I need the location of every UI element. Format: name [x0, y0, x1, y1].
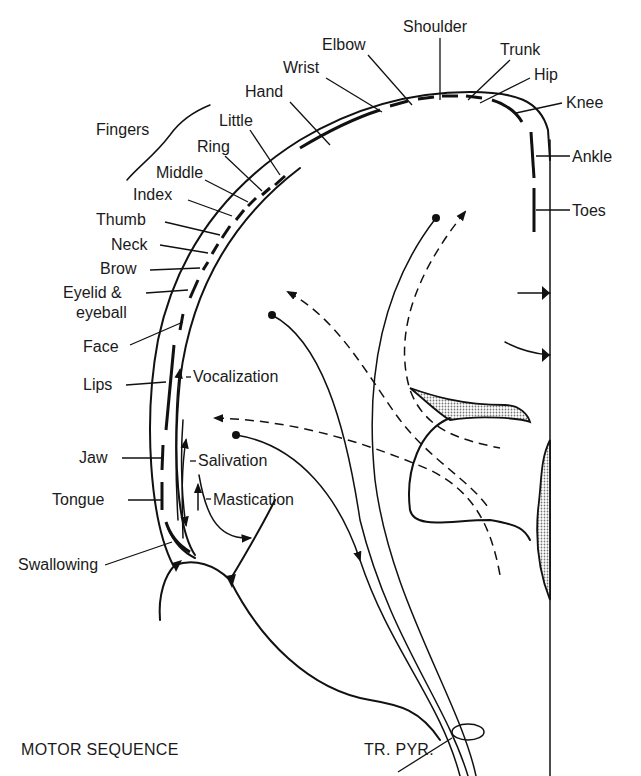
stippled-structure-upper [410, 388, 530, 422]
label-salivation: Salivation [198, 452, 267, 469]
label-elbow: Elbow [322, 36, 366, 53]
label-hip: Hip [534, 66, 558, 83]
label-middle: Middle [156, 164, 203, 181]
label-ankle: Ankle [572, 148, 612, 165]
sulcus-tick-fill [542, 286, 550, 300]
thalamus-contour [409, 418, 530, 540]
label-face: Face [83, 338, 119, 355]
sulcus-tick-fill [542, 348, 550, 362]
label-tongue: Tongue [52, 491, 105, 508]
label-trunk: Trunk [500, 41, 541, 58]
label-toes: Toes [572, 202, 606, 219]
label-knee: Knee [566, 94, 603, 111]
tract-label: TR. PYR. [364, 741, 434, 758]
label-ring: Ring [197, 138, 230, 155]
label-eyeball: eyeball [76, 304, 127, 321]
label-vocalization: Vocalization [193, 368, 278, 385]
label-wrist: Wrist [283, 59, 320, 76]
motor-homunculus-diagram: Shoulder Elbow Trunk Wrist Hip Hand Knee… [0, 0, 641, 776]
stippled-structure-lower [537, 440, 550, 600]
label-hand: Hand [245, 83, 283, 100]
label-mastication: Mastication [213, 491, 294, 508]
label-jaw: Jaw [79, 449, 108, 466]
label-eyelid: Eyelid & [63, 284, 122, 301]
sulcus-junction [175, 500, 275, 580]
cortex-outer-contour [150, 92, 550, 565]
label-thumb: Thumb [96, 211, 146, 228]
label-neck: Neck [111, 236, 148, 253]
figure-caption: MOTOR SEQUENCE [21, 741, 179, 758]
junction-fill [172, 560, 182, 572]
lower-contour [160, 565, 175, 620]
label-lips: Lips [83, 376, 112, 393]
label-little: Little [219, 112, 253, 129]
label-index: Index [133, 186, 172, 203]
label-brow: Brow [100, 260, 137, 277]
tract-ring [452, 724, 484, 740]
label-swallowing: Swallowing [18, 556, 98, 573]
label-fingers: Fingers [96, 121, 149, 138]
junction-fill [226, 574, 236, 588]
motor-strip-segments [162, 96, 534, 552]
label-shoulder: Shoulder [403, 18, 468, 35]
